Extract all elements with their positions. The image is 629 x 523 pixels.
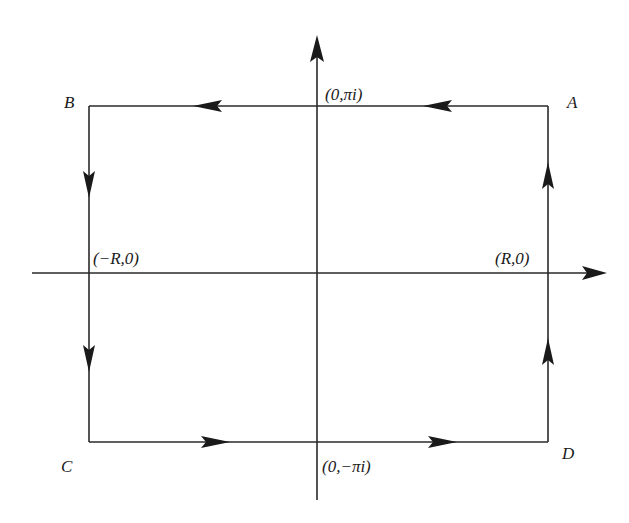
axes — [32, 48, 592, 500]
point-label-top: (0,πi) — [325, 86, 362, 103]
corner-label-c: C — [61, 458, 72, 475]
corner-label-a: A — [567, 94, 577, 111]
contour-rectangle — [89, 106, 548, 442]
corner-label-d: D — [562, 445, 574, 462]
point-label-right: (R,0) — [495, 250, 529, 267]
corner-label-b: B — [64, 94, 74, 111]
point-label-bottom: (0,−πi) — [322, 458, 371, 475]
point-label-left: (−R,0) — [93, 250, 139, 267]
